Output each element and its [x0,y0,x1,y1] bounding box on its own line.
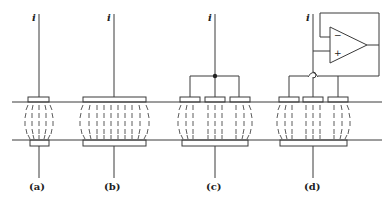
guard-bus-left [289,76,308,97]
current-label: i [32,12,36,23]
panel-label: (b) [104,181,120,192]
wire-crossover-hop [308,73,318,78]
panel-b: i (b) [80,12,149,192]
opamp-minus-sign: − [334,30,342,40]
bottom-electrode [30,140,49,146]
center-electrode [303,97,323,102]
current-label: i [306,12,310,23]
top-electrode [83,97,146,102]
opamp-plus-sign: + [334,48,342,58]
field-lines [277,105,350,139]
field-lines [80,105,149,139]
center-electrode [205,97,225,102]
electrode-field-diagram: i (a) i (b) [0,0,389,201]
bottom-electrode [83,140,146,146]
panel-a: i (a) [25,12,53,192]
guard-electrode-right [230,97,250,102]
current-label: i [208,12,212,23]
bottom-electrode [182,140,248,146]
output-to-guard-right [338,45,379,97]
panel-label: (a) [29,181,45,192]
panel-label: (d) [304,181,320,192]
panel-c: i (c) [178,12,252,192]
guard-electrode-left [279,97,299,102]
junction-dot [213,74,217,78]
panel-label: (c) [206,181,222,192]
field-lines [25,105,53,139]
bottom-electrode [280,140,347,146]
feedback-wire [320,13,379,45]
guard-electrode-right [328,97,348,102]
current-label: i [107,12,111,23]
top-electrode [28,97,49,102]
guard-electrode-left [180,97,200,102]
field-lines [178,105,252,139]
